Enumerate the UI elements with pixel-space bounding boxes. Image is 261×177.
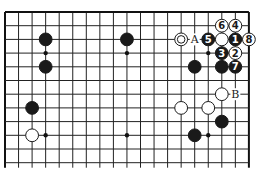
white-stone: [175, 102, 188, 115]
black-stone: [188, 60, 201, 73]
move-number: 6: [218, 20, 225, 31]
white-stone-6: 6: [215, 19, 228, 32]
star-point: [43, 133, 47, 137]
star-point: [125, 133, 129, 137]
stone-body: [188, 60, 201, 73]
stone-body: [26, 102, 39, 115]
white-stone-4: 4: [229, 19, 242, 32]
stone-body: [26, 129, 39, 142]
white-stone-2: 2: [229, 47, 242, 60]
move-number: 7: [232, 61, 239, 72]
black-stone-3: 3: [215, 47, 228, 60]
white-stone: [202, 102, 215, 115]
black-stone: [188, 129, 201, 142]
white-stone: [215, 33, 228, 46]
move-number: 5: [205, 34, 212, 45]
black-stone: [26, 102, 39, 115]
stone-body: [188, 129, 201, 142]
move-number: 2: [232, 48, 239, 59]
move-number: 1: [232, 34, 239, 45]
stone-body: [202, 102, 215, 115]
star-point: [43, 51, 47, 55]
stone-body: [215, 60, 228, 73]
white-stone: [215, 88, 228, 101]
position-letter-b: B: [231, 88, 239, 101]
white-stone: [175, 33, 188, 46]
black-stone-5: 5: [202, 33, 215, 46]
black-stone: [215, 115, 228, 128]
star-point: [125, 51, 129, 55]
black-stone: [39, 33, 52, 46]
move-number: 8: [245, 34, 252, 45]
white-stone-8: 8: [243, 33, 256, 46]
stone-body: [175, 33, 188, 46]
stone-body: [215, 33, 228, 46]
black-stone: [39, 60, 52, 73]
move-number: 3: [218, 48, 225, 59]
stone-body: [121, 33, 134, 46]
stone-body: [215, 115, 228, 128]
go-diagram: AB 51864327: [0, 0, 261, 177]
star-point: [206, 51, 210, 55]
star-point: [206, 133, 210, 137]
black-stone-1: 1: [229, 33, 242, 46]
go-board: AB 51864327: [0, 0, 261, 177]
stone-body: [175, 102, 188, 115]
black-stone: [121, 33, 134, 46]
stone-body: [39, 60, 52, 73]
stone-body: [39, 33, 52, 46]
move-number: 4: [232, 20, 239, 31]
white-stone: [26, 129, 39, 142]
stone-body: [215, 88, 228, 101]
black-stone: [215, 60, 228, 73]
black-stone-7: 7: [229, 60, 242, 73]
position-letter-a: A: [190, 33, 200, 46]
